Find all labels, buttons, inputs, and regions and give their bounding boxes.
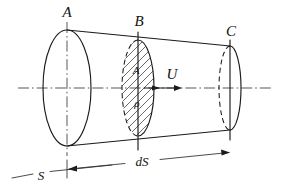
surface-leader-line [12,165,112,178]
label-length-ds: dS [136,154,150,169]
label-surface-s: S [38,168,45,183]
label-section-b: B [134,13,143,29]
dimension-line-ds [67,150,230,178]
left-cross-section [43,22,91,156]
label-section-c: C [226,23,237,39]
stream-tube-figure: A B C A ρ U dS S [0,0,291,191]
label-area-symbol: A [132,64,140,76]
label-velocity-symbol: U [167,66,179,82]
stream-tube-diagram: A B C A ρ U dS S [0,0,291,191]
label-section-a: A [61,4,72,20]
right-cross-section [219,40,241,140]
label-density-symbol: ρ [133,97,139,109]
